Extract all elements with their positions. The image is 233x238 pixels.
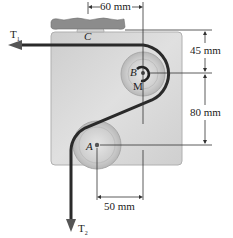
- pulley-b-label: B: [130, 66, 137, 78]
- support-c: [51, 18, 125, 29]
- force-t1-label: T1: [10, 28, 20, 42]
- pulley-a-label: A: [86, 140, 93, 152]
- pulley-a-center: [95, 143, 99, 147]
- force-t2-label: T2: [78, 222, 88, 236]
- dimension-60mm: 60 mm: [100, 0, 131, 12]
- t2-arrowhead: [66, 219, 76, 232]
- dimension-80mm: 80 mm: [190, 106, 221, 118]
- dimension-45mm: 45 mm: [190, 44, 221, 56]
- motor-m-label: M: [133, 80, 143, 92]
- dimension-50mm: 50 mm: [104, 200, 135, 212]
- support-c-label: C: [84, 30, 91, 42]
